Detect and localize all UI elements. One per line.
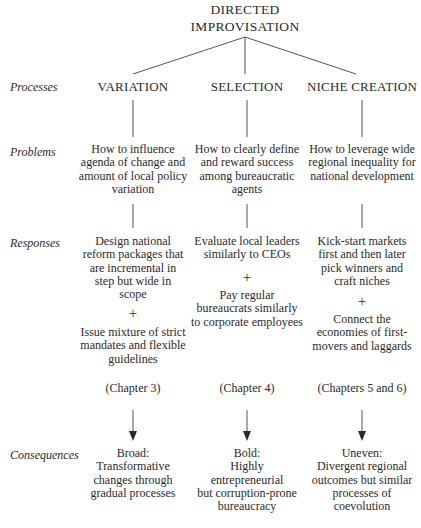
text-line: gradual processes	[73, 487, 193, 500]
chapter-ref-niche-creation: (Chapters 5 and 6)	[302, 381, 421, 396]
text-line: mandates and flexible	[73, 339, 193, 352]
text-line: are incremental in	[73, 262, 193, 275]
row-label-responses: Responses	[10, 236, 60, 251]
text-line: Transformative	[73, 460, 193, 473]
text-line: Highly	[187, 460, 307, 473]
text-line: step but wide in	[73, 275, 193, 288]
consequence-niche-creation: Uneven: Divergent regional outcomes but …	[302, 447, 421, 513]
response-niche-creation-a: Kick-start markets first and then later …	[302, 235, 421, 288]
plus-icon: +	[187, 269, 307, 285]
response-selection-a: Evaluate local leaders similarly to CEOs	[187, 235, 307, 262]
text-line: processes of	[302, 487, 421, 500]
text-line: Uneven:	[302, 447, 421, 460]
text-line: coevolution	[302, 500, 421, 513]
consequence-selection: Bold: Highly entrepreneurial but corrupt…	[187, 447, 307, 513]
response-niche-creation-b: Connect the economies of first- movers a…	[302, 313, 421, 353]
text-line: movers and laggards	[302, 340, 421, 353]
plus-icon: +	[302, 293, 421, 309]
chapter-ref-variation: (Chapter 3)	[73, 381, 193, 396]
consequence-variation: Broad: Transformative changes through gr…	[73, 447, 193, 500]
problem-niche-creation: How to leverage wide regional inequality…	[302, 143, 421, 183]
arrowheads	[129, 431, 366, 441]
text-line: first and then later	[302, 248, 421, 261]
text-line: Kick-start markets	[302, 235, 421, 248]
text-line: reform packages that	[73, 248, 193, 261]
process-selection: SELECTION	[187, 79, 307, 95]
title-line-1: DIRECTED	[145, 1, 345, 18]
row-label-problems: Problems	[10, 145, 56, 160]
text-line: bureaucracy	[187, 500, 307, 513]
text-line: Divergent regional	[302, 460, 421, 473]
text-line: Connect the	[302, 313, 421, 326]
text-line: amount of local policy	[73, 170, 193, 183]
diagram-title: DIRECTED IMPROVISATION	[145, 1, 345, 35]
text-line: Broad:	[73, 447, 193, 460]
text-line: and reward success	[187, 156, 307, 169]
text-line: changes through	[73, 474, 193, 487]
text-line: Issue mixture of strict	[73, 326, 193, 339]
text-line: variation	[73, 183, 193, 196]
text-line: agents	[187, 183, 307, 196]
text-line: Design national	[73, 235, 193, 248]
process-niche-creation: NICHE CREATION	[302, 79, 421, 95]
text-line: Pay regular	[187, 289, 307, 302]
text-line: pick winners and	[302, 262, 421, 275]
text-line: How to leverage wide	[302, 143, 421, 156]
text-line: bureaucrats similarly	[187, 302, 307, 315]
text-line: entrepreneurial	[187, 474, 307, 487]
response-variation-a: Design national reform packages that are…	[73, 235, 193, 301]
text-line: How to influence	[73, 143, 193, 156]
text-line: guidelines	[73, 353, 193, 366]
problem-variation: How to influence agenda of change and am…	[73, 143, 193, 196]
text-line: scope	[73, 288, 193, 301]
row-label-processes: Processes	[10, 80, 58, 95]
text-line: Evaluate local leaders	[187, 235, 307, 248]
chapter-ref-selection: (Chapter 4)	[187, 381, 307, 396]
response-selection-b: Pay regular bureaucrats similarly to cor…	[187, 289, 307, 329]
text-line: similarly to CEOs	[187, 248, 307, 261]
plus-icon: +	[73, 305, 193, 321]
process-variation: VARIATION	[73, 79, 193, 95]
text-line: outcomes but similar	[302, 474, 421, 487]
text-line: craft niches	[302, 275, 421, 288]
text-line: How to clearly define	[187, 143, 307, 156]
text-line: to corporate employees	[187, 316, 307, 329]
text-line: regional inequality for	[302, 156, 421, 169]
text-line: among bureaucratic	[187, 170, 307, 183]
text-line: but corruption-prone	[187, 487, 307, 500]
row-label-consequences: Consequences	[10, 448, 79, 463]
text-line: economies of first-	[302, 326, 421, 339]
text-line: national development	[302, 170, 421, 183]
title-line-2: IMPROVISATION	[145, 18, 345, 35]
problem-selection: How to clearly define and reward success…	[187, 143, 307, 196]
text-line: Bold:	[187, 447, 307, 460]
text-line: agenda of change and	[73, 156, 193, 169]
response-variation-b: Issue mixture of strict mandates and fle…	[73, 326, 193, 366]
